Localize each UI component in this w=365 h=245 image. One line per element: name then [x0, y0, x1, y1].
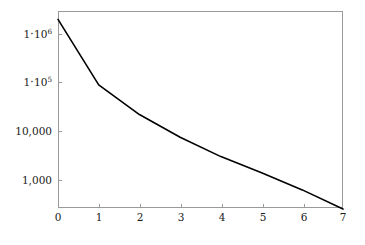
y-tick-label-10000: 10,000 — [15, 126, 52, 137]
y-tick-label-1e5: 1·105 — [24, 77, 52, 88]
x-tick-label-2: 2 — [128, 212, 152, 223]
y-tick-plain: 10,000 — [15, 125, 52, 137]
y-tick-label-1000: 1,000 — [22, 175, 52, 186]
plot-area — [58, 11, 343, 208]
y-tick-label-1e6: 1·106 — [24, 29, 52, 40]
x-tick-label-5: 5 — [251, 212, 275, 223]
x-tick-label-6: 6 — [292, 212, 316, 223]
y-tick-plain: 1,000 — [22, 174, 52, 186]
x-tick-label-1: 1 — [87, 212, 111, 223]
y-tick-exponent: 6 — [47, 27, 52, 36]
x-tick-label-3: 3 — [169, 212, 193, 223]
y-tick-exponent: 5 — [47, 75, 52, 84]
x-tick-label-7: 7 — [331, 212, 355, 223]
data-series-line — [58, 19, 343, 209]
y-tick-base: 10 — [34, 28, 47, 40]
x-tick-label-0: 0 — [46, 212, 70, 223]
chart-figure: 1·106 1·105 10,000 1,000 0 1 2 3 4 5 6 7 — [0, 0, 365, 245]
x-tick-label-4: 4 — [210, 212, 234, 223]
y-tick-base: 10 — [34, 76, 47, 88]
